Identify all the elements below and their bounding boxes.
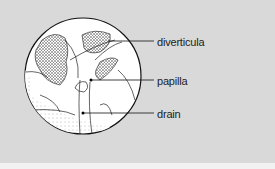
endoscopic-view-circle [25,18,141,135]
label-diverticula: diverticula [157,36,204,48]
endoscopic-illustration [0,0,275,169]
label-papilla: papilla [157,75,187,87]
label-drain: drain [157,108,180,120]
